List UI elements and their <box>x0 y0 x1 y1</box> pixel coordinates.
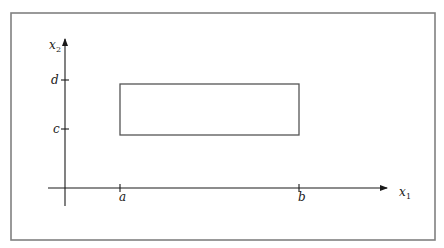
svg-text:1: 1 <box>406 192 411 201</box>
y-tick-label-d: d <box>51 73 59 87</box>
svg-text:x: x <box>399 185 406 199</box>
x-axis-label: x 1 <box>399 185 411 201</box>
y-axis-label: x 2 <box>49 38 61 54</box>
rectangle-region <box>120 84 299 135</box>
y-tick-label-c: c <box>53 122 60 136</box>
svg-text:2: 2 <box>56 45 61 54</box>
outer-frame <box>11 13 435 240</box>
x-tick-label-b: b <box>298 190 306 204</box>
svg-text:x: x <box>49 38 56 52</box>
diagram-canvas: a b d c x 1 x 2 <box>0 0 444 248</box>
x-tick-label-a: a <box>119 190 126 204</box>
